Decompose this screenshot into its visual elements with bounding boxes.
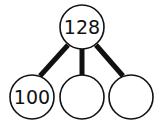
whole-circle: 128: [60, 5, 104, 49]
whole-value: 128: [64, 16, 100, 38]
number-bond-diagram: 128 100: [0, 0, 157, 125]
part-circle-2[interactable]: [60, 75, 104, 119]
part-circle-3[interactable]: [109, 75, 153, 119]
part-circle-1[interactable]: 100: [10, 75, 54, 119]
connector-right: [96, 45, 123, 76]
part-1-value: 100: [14, 86, 50, 108]
connector-left: [40, 45, 68, 76]
